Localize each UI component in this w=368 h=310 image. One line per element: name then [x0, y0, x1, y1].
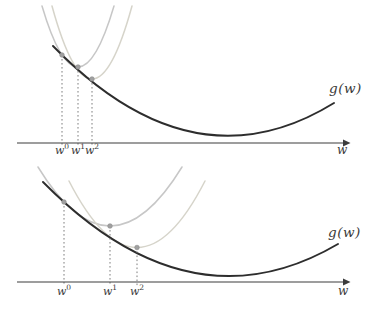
x-tick-label-w1: w1: [103, 286, 117, 297]
figure-successive-quadratic-approximations: w0 w1 w2 g(w) w w0 w1 w2 g(w) w: [0, 0, 368, 310]
iterate-marker-w1: [76, 65, 81, 70]
iterate-marker-w2: [135, 245, 140, 250]
tick-superscript: 1: [112, 283, 117, 292]
function-label-gw: g(w): [329, 82, 362, 96]
quadratic-approximation-2: [69, 181, 205, 248]
quadratic-approximation-2: [52, 6, 132, 79]
x-tick-label-w0: w0: [57, 286, 71, 297]
quadratic-approximation-1: [42, 6, 114, 67]
tick-superscript: 2: [139, 283, 144, 292]
iterate-marker-w1: [108, 224, 113, 229]
iterate-marker-w0: [60, 53, 65, 58]
g-function-curve: [43, 182, 338, 276]
tick-superscript: 2: [94, 142, 99, 151]
x-tick-label-w2: w2: [130, 286, 144, 297]
tick-superscript: 0: [66, 283, 71, 292]
iterate-marker-w2: [90, 77, 95, 82]
bottom-panel: [0, 155, 368, 310]
function-label-gw: g(w): [328, 226, 361, 240]
top-panel: [0, 0, 368, 155]
quadratic-approximation-1: [38, 167, 182, 226]
tick-superscript: 0: [64, 142, 69, 151]
g-function-curve: [53, 46, 334, 136]
x-axis-label: w: [338, 285, 348, 297]
iterate-marker-w0: [62, 200, 67, 205]
